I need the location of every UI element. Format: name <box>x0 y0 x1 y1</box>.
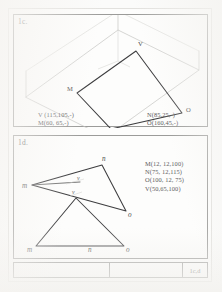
front-view-label-o: o <box>126 246 130 254</box>
coordinate-list-left-1c: V (115,105,-) M(60, 65,-) <box>38 111 74 127</box>
top-view-label-o: o <box>128 211 132 219</box>
title-block-cell-left <box>14 263 110 277</box>
drawing-panel-1d: 1d. m n o v m n o v M(12, 12,100) <box>13 135 208 259</box>
coordinate-line: M(12, 12,100) <box>145 160 184 168</box>
title-block: 1c,d <box>13 262 208 278</box>
top-view-label-n: n <box>102 155 106 163</box>
front-view-label-n: n <box>88 246 92 254</box>
top-view-label-v: v <box>77 175 80 181</box>
front-view-triangle <box>36 192 124 246</box>
front-view-label-m: m <box>27 246 32 254</box>
title-block-reference-text: 1c,d <box>190 267 201 274</box>
coordinate-line: N(75, 12,115) <box>145 168 184 176</box>
top-view-label-m: m <box>22 182 27 190</box>
construction-drawing-1d: m n o v m n o v <box>14 136 209 260</box>
coordinate-line: V(50,65,100) <box>145 185 184 193</box>
top-view-triangle <box>32 165 126 211</box>
front-view-label-v: v <box>72 189 75 195</box>
vertex-label-m: M <box>67 85 73 92</box>
scanned-sheet: 1c. V M N O V (115,105,-) <box>0 0 222 292</box>
coordinate-line: N(85,25,-) <box>147 111 178 119</box>
coordinate-line: M(60, 65,-) <box>38 119 74 127</box>
title-block-cell-reference: 1c,d <box>183 263 207 277</box>
coordinate-line: O(100, 12, 75) <box>145 176 184 184</box>
coordinate-line: O(160,45,-) <box>147 119 178 127</box>
vertex-label-v: V <box>138 40 143 47</box>
coordinate-line: V (115,105,-) <box>38 111 74 119</box>
coordinate-list-1d: M(12, 12,100) N(75, 12,115) O(100, 12, 7… <box>145 160 184 193</box>
drawing-panel-1c: 1c. V M N O V (115,105,-) <box>13 14 208 127</box>
coordinate-list-right-1c: N(85,25,-) O(160,45,-) <box>147 111 178 127</box>
title-block-cell-middle <box>110 263 183 277</box>
vertex-label-o: O <box>186 106 191 113</box>
